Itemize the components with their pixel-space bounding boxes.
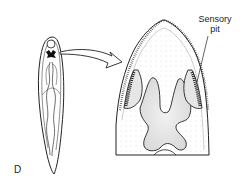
planarian-body — [38, 37, 63, 174]
head-enlargement — [116, 20, 209, 155]
sensory-pit-label: Sensory pit — [190, 14, 240, 34]
label-line-2: pit — [190, 24, 240, 34]
panel-label: D — [14, 165, 21, 175]
magnify-arrow — [60, 49, 122, 68]
label-line-1: Sensory — [190, 14, 240, 24]
